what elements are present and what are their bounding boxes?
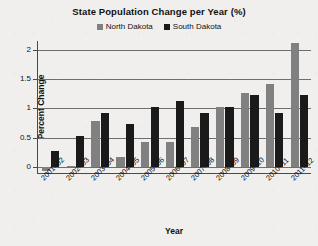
plot-area: Percent Change 00.511.52 (37, 41, 311, 173)
legend-swatch-south-dakota (164, 24, 170, 30)
bar-group (141, 41, 159, 173)
legend-item-south-dakota: South Dakota (164, 22, 221, 31)
bar-group (67, 41, 85, 173)
x-axis-title: Year (37, 226, 311, 236)
y-tick-label: 1 (27, 104, 31, 112)
bar-group (241, 41, 259, 173)
chart-legend: North Dakota South Dakota (0, 22, 318, 31)
legend-swatch-north-dakota (97, 24, 103, 30)
y-tick-label: 0.5 (20, 134, 31, 142)
bar-chart: State Population Change per Year (%) Nor… (0, 0, 318, 246)
bar (91, 121, 99, 167)
bar-group (116, 41, 134, 173)
bar-group (166, 41, 184, 173)
bar-group (42, 41, 60, 173)
bar-group (91, 41, 109, 173)
legend-item-north-dakota: North Dakota (97, 22, 153, 31)
x-axis-tick-labels: 2001–022002–032003–042004–052005–062006–… (37, 176, 311, 222)
bar-group (216, 41, 234, 173)
bar (216, 107, 224, 167)
y-tick-label: 2 (27, 46, 31, 54)
legend-label-south-dakota: South Dakota (173, 22, 221, 31)
legend-label-north-dakota: North Dakota (106, 22, 153, 31)
bar-group (291, 41, 309, 173)
bar (166, 142, 174, 167)
bar-group (191, 41, 209, 173)
y-tick-label: 1.5 (20, 75, 31, 83)
bar (191, 127, 199, 167)
y-tick-label: 0 (27, 163, 31, 171)
bar (266, 84, 274, 167)
bars-layer (37, 41, 311, 173)
chart-title: State Population Change per Year (%) (0, 6, 318, 17)
bar (141, 142, 149, 167)
bar (241, 93, 249, 168)
bar (291, 43, 299, 167)
bar-group (266, 41, 284, 173)
